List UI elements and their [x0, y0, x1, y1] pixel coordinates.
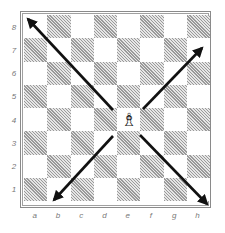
- square-b6: [47, 62, 70, 85]
- file-label-g: g: [172, 212, 176, 220]
- bishop-glyph: ♗: [121, 111, 137, 129]
- square-h8: [187, 15, 210, 38]
- square-e7: [117, 38, 140, 61]
- square-d4: [94, 108, 117, 131]
- square-a7: [24, 38, 47, 61]
- square-h4: [187, 108, 210, 131]
- square-g6: [164, 62, 187, 85]
- rank-label-6: 6: [12, 70, 16, 78]
- square-g5: [164, 85, 187, 108]
- square-e5: [117, 85, 140, 108]
- square-g2: [164, 155, 187, 178]
- square-c5: [71, 85, 94, 108]
- square-b4: [47, 108, 70, 131]
- square-a4: [24, 108, 47, 131]
- rank-label-5: 5: [12, 93, 16, 101]
- square-c1: [71, 178, 94, 201]
- square-h2: [187, 155, 210, 178]
- square-h7: [187, 38, 210, 61]
- rank-label-2: 2: [12, 163, 16, 171]
- square-b1: [47, 178, 70, 201]
- square-g7: [164, 38, 187, 61]
- square-c3: [71, 131, 94, 154]
- square-h6: [187, 62, 210, 85]
- square-c8: [71, 15, 94, 38]
- square-b8: [47, 15, 70, 38]
- square-e3: [117, 131, 140, 154]
- rank-label-3: 3: [12, 140, 16, 148]
- square-f8: [140, 15, 163, 38]
- square-d2: [94, 155, 117, 178]
- rank-label-8: 8: [12, 24, 16, 32]
- rank-label-4: 4: [12, 117, 16, 125]
- square-e6: [117, 62, 140, 85]
- square-a2: [24, 155, 47, 178]
- square-e2: [117, 155, 140, 178]
- square-h5: [187, 85, 210, 108]
- white-bishop-icon: ♗: [117, 108, 140, 131]
- square-f6: [140, 62, 163, 85]
- square-f3: [140, 131, 163, 154]
- square-h1: [187, 178, 210, 201]
- square-f5: [140, 85, 163, 108]
- square-c4: [71, 108, 94, 131]
- square-g8: [164, 15, 187, 38]
- file-label-h: h: [195, 212, 199, 220]
- file-label-b: b: [56, 212, 60, 220]
- file-label-f: f: [150, 212, 152, 220]
- square-f1: [140, 178, 163, 201]
- square-a5: [24, 85, 47, 108]
- square-b5: [47, 85, 70, 108]
- square-d6: [94, 62, 117, 85]
- square-a3: [24, 131, 47, 154]
- square-f7: [140, 38, 163, 61]
- square-d3: [94, 131, 117, 154]
- file-label-d: d: [102, 212, 106, 220]
- square-c7: [71, 38, 94, 61]
- square-b7: [47, 38, 70, 61]
- square-g1: [164, 178, 187, 201]
- square-c2: [71, 155, 94, 178]
- square-e1: [117, 178, 140, 201]
- square-d5: [94, 85, 117, 108]
- square-g3: [164, 131, 187, 154]
- file-label-e: e: [125, 212, 129, 220]
- square-f2: [140, 155, 163, 178]
- square-b3: [47, 131, 70, 154]
- square-f4: [140, 108, 163, 131]
- square-d8: [94, 15, 117, 38]
- rank-label-1: 1: [12, 186, 16, 194]
- square-d1: [94, 178, 117, 201]
- square-b2: [47, 155, 70, 178]
- square-g4: [164, 108, 187, 131]
- square-h3: [187, 131, 210, 154]
- file-label-a: a: [32, 212, 36, 220]
- square-a1: [24, 178, 47, 201]
- file-label-c: c: [79, 212, 83, 220]
- rank-label-7: 7: [12, 47, 16, 55]
- square-c6: [71, 62, 94, 85]
- square-d7: [94, 38, 117, 61]
- square-a8: [24, 15, 47, 38]
- square-a6: [24, 62, 47, 85]
- square-e8: [117, 15, 140, 38]
